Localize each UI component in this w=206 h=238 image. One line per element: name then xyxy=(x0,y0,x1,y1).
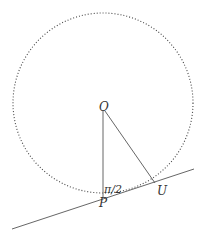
diagram: O π/2 P U xyxy=(0,0,206,238)
label-o: O xyxy=(99,100,109,114)
segment-ou xyxy=(105,111,155,183)
label-u: U xyxy=(157,184,168,198)
label-p: P xyxy=(98,196,108,210)
label-angle: π/2 xyxy=(103,183,122,196)
